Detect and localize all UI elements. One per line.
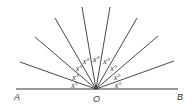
point-B-label: B xyxy=(177,92,183,102)
angle-label-4: x° xyxy=(82,57,91,66)
rays xyxy=(20,7,174,89)
angle-label-7: x° xyxy=(109,64,118,73)
angle-label-2: x° xyxy=(71,73,80,82)
angle-label-1: x° xyxy=(70,81,79,90)
angle-diagram: x°x°x°x°x°x°x°x°x° A O B xyxy=(0,0,192,108)
angle-label-5: x° xyxy=(92,55,101,64)
point-O-label: O xyxy=(93,94,100,104)
point-A-label: A xyxy=(13,92,20,102)
angle-label-9: x° xyxy=(114,81,123,90)
ray-1 xyxy=(20,62,96,89)
